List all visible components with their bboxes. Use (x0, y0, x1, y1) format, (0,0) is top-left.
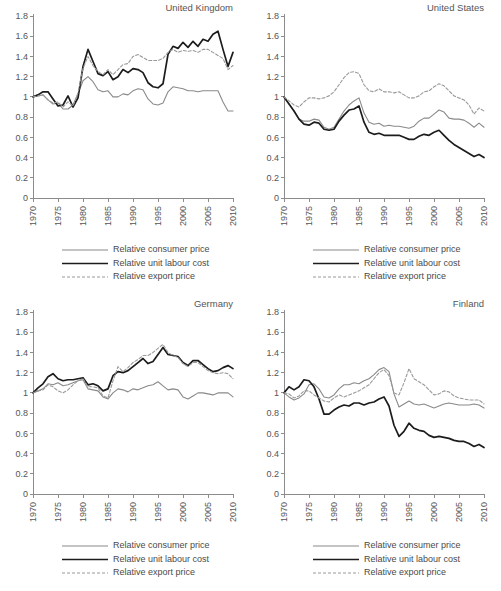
y-tick-label: 1.8 (15, 307, 28, 317)
x-tick-label: 1985 (103, 206, 113, 226)
x-tick-label: 2010 (228, 502, 238, 522)
x-tick-label: 1995 (404, 206, 414, 226)
y-tick-label: 0.8 (15, 408, 28, 418)
y-tick-label: 0.8 (266, 112, 279, 122)
y-tick-label: 1.6 (266, 31, 279, 41)
x-tick-label: 1990 (379, 502, 389, 522)
x-tick-label: 1995 (153, 502, 163, 522)
x-tick-label: 2000 (178, 502, 188, 522)
y-tick-label: 0.8 (266, 408, 279, 418)
panel-title: Germany (194, 298, 233, 309)
series-line-export_price (33, 344, 233, 398)
y-tick-label: 0.8 (15, 112, 28, 122)
y-tick-label: 0 (23, 193, 28, 203)
y-tick-label: 0.6 (15, 429, 28, 439)
x-tick-label: 2005 (203, 206, 213, 226)
panel-title: Finland (453, 298, 484, 309)
chart-panel-germany: Germany1.81.61.41.210.80.60.40.201970197… (0, 296, 250, 591)
y-tick-label: 0.2 (266, 469, 279, 479)
y-tick-label: 1.2 (15, 368, 28, 378)
y-tick-label: 1.6 (15, 327, 28, 337)
x-tick-label: 1985 (354, 206, 364, 226)
x-tick-label: 1995 (153, 206, 163, 226)
y-tick-label: 0.6 (266, 429, 279, 439)
x-tick-label: 2010 (228, 206, 238, 226)
x-tick-label: 2000 (178, 206, 188, 226)
y-tick-label: 1 (23, 92, 28, 102)
x-tick-label: 1980 (78, 502, 88, 522)
series-line-unit_labour_cost (284, 97, 484, 158)
y-tick-label: 1 (274, 92, 279, 102)
legend-label-export_price: Relative export price (113, 271, 195, 281)
series-line-export_price (284, 72, 484, 114)
series-line-consumer_price (33, 77, 233, 111)
x-tick-label: 1970 (279, 502, 289, 522)
panel-title: United States (427, 2, 484, 13)
series-line-unit_labour_cost (284, 380, 484, 448)
legend-label-unit_labour_cost: Relative unit labour cost (113, 554, 210, 564)
legend-label-unit_labour_cost: Relative unit labour cost (364, 554, 461, 564)
y-tick-label: 1.8 (266, 11, 279, 21)
x-tick-label: 1990 (128, 206, 138, 226)
y-tick-label: 0 (274, 193, 279, 203)
series-line-unit_labour_cost (33, 31, 233, 107)
y-tick-label: 1.4 (266, 52, 279, 62)
series-line-export_price (33, 49, 233, 107)
x-tick-label: 1970 (279, 206, 289, 226)
y-tick-label: 1.8 (266, 307, 279, 317)
legend-label-consumer_price: Relative consumer price (113, 244, 210, 254)
y-tick-label: 0 (274, 489, 279, 499)
x-tick-label: 2010 (479, 502, 489, 522)
legend-label-unit_labour_cost: Relative unit labour cost (113, 258, 210, 268)
x-tick-label: 1995 (404, 502, 414, 522)
y-tick-label: 0 (23, 489, 28, 499)
panel-title: United Kingdom (165, 2, 233, 13)
y-tick-label: 1.2 (15, 72, 28, 82)
series-line-consumer_price (284, 97, 484, 129)
y-tick-label: 1.8 (15, 11, 28, 21)
legend-label-consumer_price: Relative consumer price (113, 540, 210, 550)
y-tick-label: 0.4 (15, 153, 28, 163)
chart-panel-united-kingdom: United Kingdom1.81.61.41.210.80.60.40.20… (0, 0, 250, 295)
x-tick-label: 1975 (304, 502, 314, 522)
legend-label-unit_labour_cost: Relative unit labour cost (364, 258, 461, 268)
y-tick-label: 0.4 (15, 449, 28, 459)
x-tick-label: 2005 (454, 206, 464, 226)
y-tick-label: 0.4 (266, 449, 279, 459)
y-tick-label: 1.4 (15, 348, 28, 358)
y-tick-label: 1 (23, 388, 28, 398)
x-tick-label: 1985 (103, 502, 113, 522)
y-tick-label: 1.6 (15, 31, 28, 41)
legend-label-export_price: Relative export price (113, 567, 195, 577)
y-tick-label: 0.2 (15, 469, 28, 479)
x-tick-label: 1980 (329, 502, 339, 522)
x-tick-label: 2000 (429, 206, 439, 226)
chart-panel-finland: Finland1.81.61.41.210.80.60.40.201970197… (251, 296, 501, 591)
x-tick-label: 1990 (128, 502, 138, 522)
x-tick-label: 1990 (379, 206, 389, 226)
y-tick-label: 1.2 (266, 72, 279, 82)
y-tick-label: 1.6 (266, 327, 279, 337)
x-tick-label: 1980 (78, 206, 88, 226)
x-tick-label: 1975 (53, 206, 63, 226)
figure-container: United Kingdom1.81.61.41.210.80.60.40.20… (0, 0, 501, 591)
x-tick-label: 2000 (429, 502, 439, 522)
legend-label-consumer_price: Relative consumer price (364, 244, 461, 254)
y-tick-label: 0.6 (15, 133, 28, 143)
series-line-consumer_price (33, 380, 233, 399)
x-tick-label: 2010 (479, 206, 489, 226)
x-tick-label: 2005 (454, 502, 464, 522)
y-tick-label: 0.2 (15, 173, 28, 183)
chart-panel-united-states: United States1.81.61.41.210.80.60.40.201… (251, 0, 501, 295)
y-tick-label: 0.2 (266, 173, 279, 183)
legend-label-consumer_price: Relative consumer price (364, 540, 461, 550)
x-tick-label: 1970 (28, 502, 38, 522)
y-tick-label: 0.4 (266, 153, 279, 163)
x-tick-label: 1980 (329, 206, 339, 226)
x-tick-label: 1985 (354, 502, 364, 522)
y-tick-label: 1.4 (15, 52, 28, 62)
x-tick-label: 1975 (53, 502, 63, 522)
legend-label-export_price: Relative export price (364, 567, 446, 577)
y-tick-label: 1.4 (266, 348, 279, 358)
y-tick-label: 1 (274, 388, 279, 398)
